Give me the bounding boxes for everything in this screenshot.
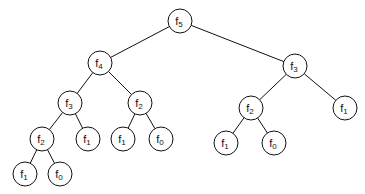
tree-node: f1 — [214, 131, 238, 155]
tree-node: f0 — [149, 127, 173, 151]
tree-edge — [260, 74, 287, 99]
tree-node: f1 — [76, 127, 100, 151]
fibonacci-recursion-tree: f5f4f3f3f2f2f1f2f1f1f0f1f0f1f0 — [0, 0, 365, 194]
tree-edge — [258, 118, 268, 133]
tree-node: f1 — [13, 162, 37, 186]
tree-edge — [111, 27, 170, 58]
tree-node: f0 — [48, 162, 72, 186]
tree-edge — [108, 71, 131, 94]
tree-node: f4 — [88, 51, 112, 75]
tree-node: f3 — [58, 91, 82, 115]
tree-node: f2 — [239, 96, 263, 120]
tree-edge — [49, 112, 62, 129]
tree-edge — [47, 150, 54, 164]
tree-edge — [128, 114, 135, 128]
tree-edge — [233, 118, 244, 133]
tree-node: f1 — [333, 96, 357, 120]
tree-node: f2 — [30, 127, 54, 151]
tree-node: f5 — [168, 9, 192, 33]
tree-nodes: f5f4f3f3f2f2f1f2f1f1f0f1f0f1f0 — [13, 9, 357, 186]
tree-edge — [30, 150, 37, 163]
tree-edge — [75, 114, 82, 129]
tree-edge — [304, 74, 336, 101]
tree-edge — [146, 113, 155, 128]
tree-edge — [77, 73, 93, 94]
tree-node: f1 — [111, 127, 135, 151]
tree-node: f3 — [283, 54, 307, 78]
tree-edge — [191, 25, 284, 61]
tree-node: f0 — [262, 131, 286, 155]
tree-node: f2 — [128, 91, 152, 115]
